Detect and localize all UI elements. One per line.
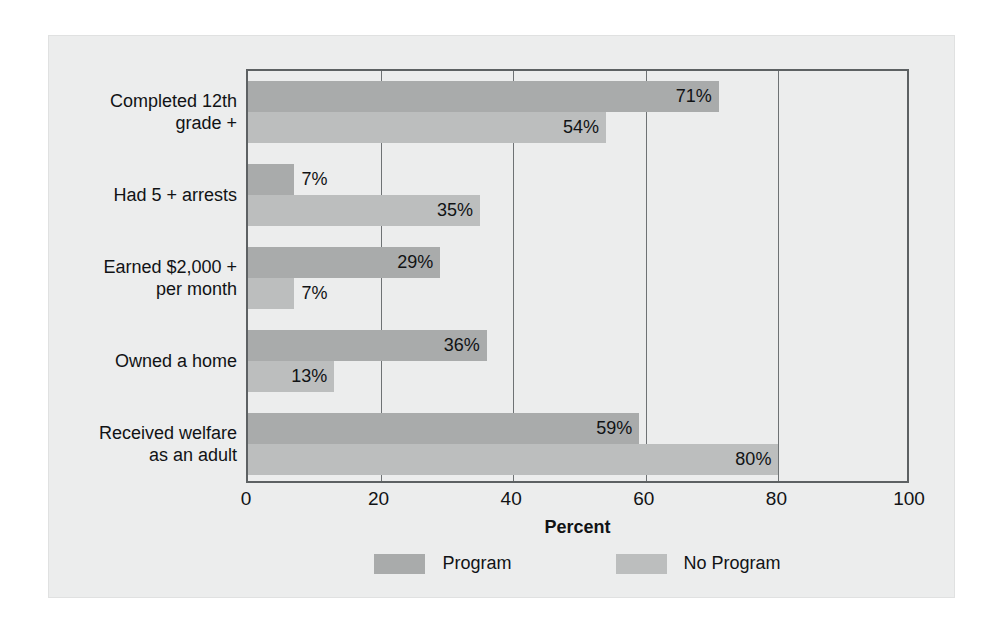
legend-swatch-no-program bbox=[616, 554, 667, 574]
x-tick-80: 80 bbox=[766, 488, 787, 510]
category-label: Earned $2,000 + per month bbox=[37, 256, 248, 300]
chart-row: Owned a home36%13% bbox=[248, 319, 907, 402]
bar-no-program[interactable]: 7% bbox=[248, 278, 294, 309]
category-label: Owned a home bbox=[37, 350, 248, 372]
chart-row: Received welfare as an adult59%80% bbox=[248, 402, 907, 485]
bar-value-label: 36% bbox=[444, 335, 487, 356]
chart-legend: Program No Program bbox=[246, 553, 909, 574]
bar-value-label: 35% bbox=[437, 200, 480, 221]
x-tick-0: 0 bbox=[241, 488, 252, 510]
bar-program[interactable]: 7% bbox=[248, 164, 294, 195]
bar-value-label: 80% bbox=[735, 449, 778, 470]
bar-value-label: 7% bbox=[294, 283, 327, 304]
chart-row: Earned $2,000 + per month29%7% bbox=[248, 237, 907, 320]
bar-program[interactable]: 71% bbox=[248, 81, 719, 112]
category-label: Received welfare as an adult bbox=[37, 422, 248, 466]
legend-item-no-program[interactable]: No Program bbox=[616, 553, 781, 574]
bar-program[interactable]: 36% bbox=[248, 330, 487, 361]
bar-no-program[interactable]: 35% bbox=[248, 195, 480, 226]
figure-panel: Completed 12th grade +71%54%Had 5 + arre… bbox=[48, 35, 955, 598]
bar-program[interactable]: 59% bbox=[248, 413, 639, 444]
category-label: Completed 12th grade + bbox=[37, 90, 248, 134]
bar-value-label: 59% bbox=[596, 418, 639, 439]
bar-no-program[interactable]: 54% bbox=[248, 112, 606, 143]
bar-value-label: 29% bbox=[397, 252, 440, 273]
bar-value-label: 13% bbox=[291, 366, 334, 387]
x-tick-60: 60 bbox=[633, 488, 654, 510]
x-tick-100: 100 bbox=[893, 488, 925, 510]
bar-value-label: 7% bbox=[294, 169, 327, 190]
legend-item-program[interactable]: Program bbox=[374, 553, 511, 574]
x-tick-40: 40 bbox=[501, 488, 522, 510]
chart-row: Completed 12th grade +71%54% bbox=[248, 71, 907, 154]
plot-area: Completed 12th grade +71%54%Had 5 + arre… bbox=[246, 69, 909, 483]
x-tick-20: 20 bbox=[368, 488, 389, 510]
bar-no-program[interactable]: 13% bbox=[248, 361, 334, 392]
legend-label-no-program: No Program bbox=[684, 553, 781, 574]
bar-no-program[interactable]: 80% bbox=[248, 444, 778, 475]
category-label: Had 5 + arrests bbox=[37, 184, 248, 206]
chart-row: Had 5 + arrests7%35% bbox=[248, 154, 907, 237]
bar-value-label: 54% bbox=[563, 117, 606, 138]
legend-label-program: Program bbox=[442, 553, 511, 574]
legend-swatch-program bbox=[374, 554, 425, 574]
bar-program[interactable]: 29% bbox=[248, 247, 440, 278]
bar-value-label: 71% bbox=[676, 86, 719, 107]
x-axis-title: Percent bbox=[246, 517, 909, 538]
